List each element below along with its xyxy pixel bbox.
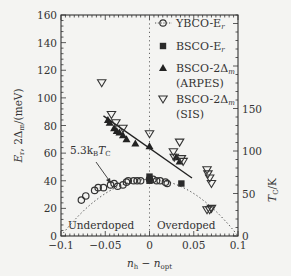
text-span: 60: [44, 147, 57, 159]
series-1: [146, 173, 184, 186]
series-0: [78, 176, 170, 203]
legend-label: YBCO-Er: [175, 17, 225, 31]
text-span: 20: [44, 202, 57, 214]
underdoped-label: Underdoped: [68, 219, 135, 231]
text-span: 50: [242, 188, 255, 200]
text-span: 40: [44, 175, 57, 187]
y-tick-label: 120: [37, 64, 57, 76]
legend-marker: [160, 43, 166, 49]
text-span: 0.1: [230, 239, 247, 251]
y-right-axis-label: TC/K: [266, 178, 280, 202]
data-point: [175, 139, 183, 146]
text-span: −0.1: [48, 239, 74, 251]
legend-label: BSCO-2Δm: [176, 62, 235, 76]
text-span: Overdoped: [157, 219, 216, 231]
legend-marker: [159, 64, 167, 71]
x-tick-label: 0.1: [230, 239, 247, 251]
data-point: [98, 80, 106, 87]
y-tick-label: 140: [37, 37, 57, 49]
y-tick-label: 100: [37, 92, 57, 104]
text-span: /K: [266, 178, 278, 190]
text-span: , 2Δ: [12, 130, 24, 151]
text-span: 80: [44, 120, 57, 132]
text-span: m: [228, 99, 235, 107]
y-tick-label: 160: [37, 9, 57, 21]
legend-item: BSCO-Er: [160, 40, 225, 54]
axes: 020406080100120140160050100150−0.1−0.050…: [12, 9, 280, 271]
text-span: YBCO-E: [175, 17, 221, 30]
text-span: 140: [37, 37, 57, 49]
y-tick-label: 80: [44, 120, 57, 132]
annotation-5.3kbtc: 5.3kBTC: [70, 144, 111, 158]
text-span: 5.3k: [70, 144, 94, 156]
x-tick-label: 0.05: [182, 239, 205, 251]
data-point: [178, 180, 184, 186]
text-span: E: [12, 155, 24, 164]
y-right-tick-label: 150: [242, 103, 262, 115]
data-point: [83, 193, 89, 199]
text-span: 120: [37, 64, 57, 76]
legend-item: BSCO-2Δm(SIS): [159, 93, 235, 121]
x-tick-label: −0.05: [89, 239, 121, 251]
text-span: 0.05: [182, 239, 205, 251]
y-right-tick-label: 100: [242, 145, 262, 157]
text-span: (SIS): [176, 108, 204, 121]
chart: 020406080100120140160050100150−0.1−0.050…: [0, 0, 291, 276]
text-span: r: [221, 23, 225, 31]
text-span: r: [221, 46, 225, 54]
data-point: [146, 178, 152, 184]
text-span: (ARPES): [176, 77, 224, 90]
data-point: [203, 167, 211, 174]
text-span: BSCO-2Δ: [176, 93, 228, 106]
x-tick-label: −0.1: [48, 239, 74, 251]
text-span: 150: [242, 103, 262, 115]
annotations: 5.3kBTCUnderdopedOverdoped: [68, 144, 216, 231]
legend-label: BSCO-2Δm: [176, 93, 235, 107]
text-span: 100: [37, 92, 57, 104]
text-span: BSCO-2Δ: [176, 62, 228, 75]
legend-label: BSCO-Er: [176, 40, 225, 54]
data-point: [145, 131, 153, 138]
overdoped-label: Overdoped: [157, 219, 216, 231]
text-span: −0.05: [89, 239, 121, 251]
legend-label-extra: (SIS): [176, 108, 204, 121]
data-point: [207, 181, 215, 188]
legend-item: YBCO-Er: [155, 17, 225, 31]
text-span: Underdoped: [68, 219, 135, 231]
legend-label-extra: (ARPES): [176, 77, 224, 90]
text-span: 160: [37, 9, 57, 21]
y-tick-label: 60: [44, 147, 57, 159]
y-axis-label: Er, 2Δm/(meV): [12, 88, 26, 163]
legend-item: BSCO-2Δm(ARPES): [159, 62, 235, 90]
text-span: /(meV): [12, 88, 24, 123]
text-span: m: [228, 68, 235, 76]
legend-marker: [159, 96, 167, 103]
y-tick-label: 40: [44, 175, 57, 187]
text-span: opt: [161, 263, 173, 271]
text-span: 0: [146, 239, 153, 251]
text-span: C: [105, 150, 110, 158]
y-tick-label: 20: [44, 202, 57, 214]
x-axis-label: nh − nopt: [127, 257, 172, 271]
text-span: BSCO-E: [176, 40, 221, 53]
text-span: 100: [242, 145, 262, 157]
x-tick-label: 0: [146, 239, 153, 251]
legend: YBCO-ErBSCO-ErBSCO-2Δm(ARPES)BSCO-2Δm(SI…: [155, 17, 235, 121]
text-span: − n: [138, 257, 160, 269]
y-right-tick-label: 50: [242, 188, 255, 200]
